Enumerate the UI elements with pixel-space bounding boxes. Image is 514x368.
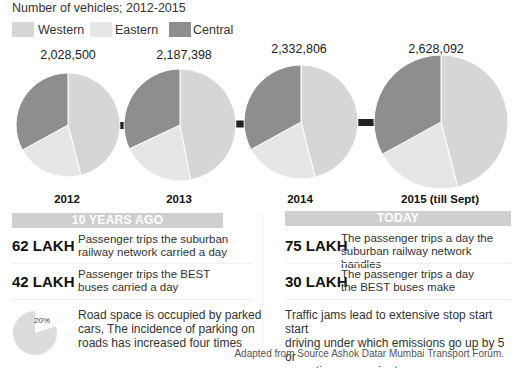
stat-description: The passenger trips a day the suburban r… — [341, 232, 514, 271]
column-divider — [262, 213, 263, 348]
stat-description-line: The passenger trips a day the — [341, 232, 514, 245]
ten-years-ago-header: 10 YEARS AGO — [12, 213, 223, 228]
traffic-description: Traffic jams lead to extensive stop star… — [285, 308, 514, 368]
source-footer: Adapted from Source Ashok Datar Mumbai T… — [234, 348, 504, 359]
today-header: TODAY — [285, 211, 511, 226]
row-divider — [285, 299, 511, 300]
stat-description: Passenger trips the suburban railway net… — [78, 233, 228, 259]
traffic-description-line: Traffic jams lead to extensive stop star… — [285, 308, 514, 336]
stat-description-line: The passenger trips a day — [341, 268, 474, 281]
stat-description-line: Passenger trips the suburban — [78, 233, 228, 246]
pie-charts — [0, 0, 514, 200]
parking-description: Road space is occupied by parked cars, T… — [78, 308, 261, 350]
year-label-2013: 2013 — [114, 193, 244, 205]
stat-description-line: the BEST buses make — [341, 281, 474, 294]
traffic-description-line: more times per minute — [285, 364, 514, 368]
year-label-2014: 2014 — [235, 193, 365, 205]
row-divider — [285, 263, 511, 264]
stat-description-line: railway network carried a day — [78, 246, 228, 259]
stat-value: 75 LAKH — [285, 237, 348, 254]
stat-value: 30 LAKH — [285, 273, 348, 290]
stat-description-line: buses carried a day — [78, 281, 210, 294]
year-label-2012: 2012 — [2, 193, 132, 205]
year-label-2015: 2015 (till Sept) — [375, 193, 505, 205]
parking-description-line: cars, The incidence of parking on — [78, 322, 261, 336]
parking-pct-label: 20% — [34, 316, 50, 325]
stat-description: Passenger trips the BEST buses carried a… — [78, 268, 210, 294]
parking-description-line: Road space is occupied by parked — [78, 308, 261, 322]
pie-connector — [356, 119, 376, 126]
row-divider — [12, 299, 252, 300]
stat-value: 42 LAKH — [12, 273, 75, 290]
stat-value: 62 LAKH — [12, 237, 75, 254]
stat-description: The passenger trips a day the BEST buses… — [341, 268, 474, 294]
row-divider — [12, 263, 252, 264]
stat-description-line: Passenger trips the BEST — [78, 268, 210, 281]
pie-slice-western-2013 — [180, 69, 236, 180]
